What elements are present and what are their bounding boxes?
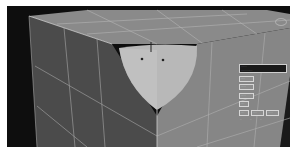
panel-button-6b[interactable]: ..	[249, 118, 257, 122]
panel-title: ...... ............	[239, 64, 287, 73]
panel-button-6a[interactable]: ..	[239, 118, 247, 122]
panel-button-5b[interactable]: .....	[251, 110, 264, 116]
panel-button-3[interactable]: ......	[239, 93, 254, 99]
viewcube-icon[interactable]	[275, 18, 287, 26]
panel-button-6c[interactable]: ..	[259, 118, 267, 122]
panel-button-5c[interactable]: ......	[266, 110, 279, 116]
panel-button-2[interactable]: ......	[239, 84, 254, 90]
panel-button-4[interactable]: ....	[239, 101, 249, 107]
properties-panel: ...... ............ ..... ...... ...... …	[239, 64, 287, 122]
viewport[interactable]: ...... ............ ..... ...... ...... …	[7, 6, 290, 147]
panel-title-line2: ............	[241, 68, 252, 72]
panel-button-5a[interactable]: ....	[239, 110, 249, 116]
panel-button-1[interactable]: .....	[239, 76, 254, 82]
